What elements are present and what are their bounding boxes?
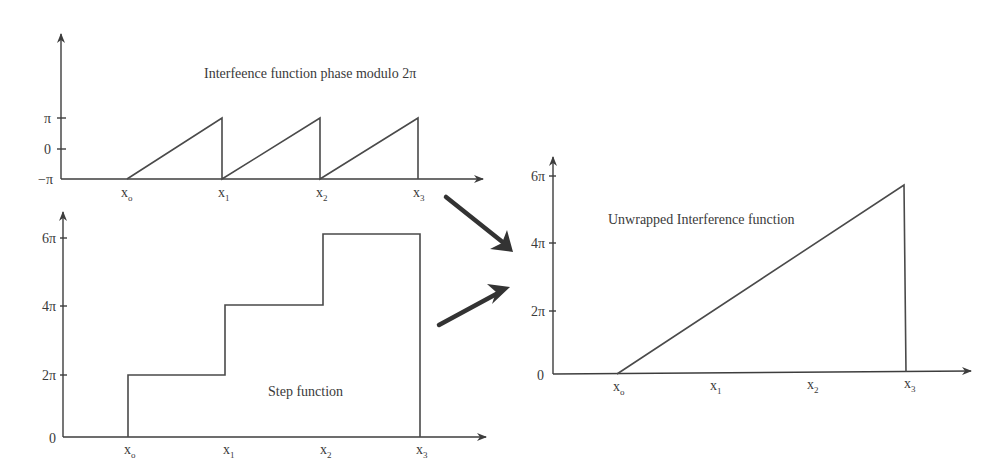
top-chart: π 0 −π Interfeence function phase modulo… <box>38 34 483 203</box>
arrow-top-to-right <box>446 197 513 252</box>
svg-text:xo: xo <box>121 185 133 203</box>
svg-text:x2: x2 <box>320 442 332 460</box>
svg-text:x3: x3 <box>904 376 916 394</box>
bottom-y-label-zero: 0 <box>49 431 56 446</box>
bottom-y-label-6pi: 6π <box>42 231 56 246</box>
right-x-axis <box>553 371 971 374</box>
top-y-label-neg-pi: −π <box>38 172 53 187</box>
diagram-canvas: π 0 −π Interfeence function phase modulo… <box>0 0 1000 475</box>
right-x-label-x1: x1 <box>710 378 722 396</box>
right-x-label-x2: x2 <box>807 377 819 395</box>
bottom-y-label-2pi: 2π <box>42 368 56 383</box>
svg-text:xo: xo <box>124 442 136 460</box>
bottom-x-label-x3: x3 <box>416 442 428 460</box>
right-x-label-x3: x3 <box>904 376 916 394</box>
step-curve <box>128 234 420 437</box>
top-y-label-pi: π <box>44 111 51 126</box>
svg-text:x2: x2 <box>316 185 328 203</box>
right-y-label-zero: 0 <box>537 368 544 383</box>
bottom-chart-title: Step function <box>268 384 343 399</box>
svg-text:x3: x3 <box>413 185 425 203</box>
svg-text:x1: x1 <box>710 378 722 396</box>
top-x-label-x3: x3 <box>413 185 425 203</box>
top-x-label-x0: xo <box>121 185 133 203</box>
right-y-label-6pi: 6π <box>531 169 545 184</box>
right-chart-title: Unwrapped Interference function <box>608 212 795 227</box>
top-chart-title: Interfeence function phase modulo 2π <box>204 66 416 81</box>
bottom-x-label-x2: x2 <box>320 442 332 460</box>
top-x-label-x1: x1 <box>218 185 230 203</box>
bottom-x-label-x0: xo <box>124 442 136 460</box>
bottom-y-label-4pi: 4π <box>42 299 56 314</box>
right-x-label-x0: xo <box>613 379 625 397</box>
svg-text:x2: x2 <box>807 377 819 395</box>
svg-text:x1: x1 <box>218 185 230 203</box>
bottom-chart: 6π 4π 2π 0 Step function xo x1 x2 x3 <box>42 212 486 460</box>
right-y-label-4pi: 4π <box>531 236 545 251</box>
arrow-bottom-to-right <box>439 284 510 325</box>
svg-text:x3: x3 <box>416 442 428 460</box>
right-chart: 6π 4π 2π 0 Unwrapped Interference functi… <box>531 157 971 397</box>
sawtooth-curve <box>127 118 418 179</box>
svg-text:x1: x1 <box>223 442 235 460</box>
bottom-x-label-x1: x1 <box>223 442 235 460</box>
top-y-label-zero: 0 <box>44 142 51 157</box>
svg-text:xo: xo <box>613 379 625 397</box>
right-y-label-2pi: 2π <box>531 304 545 319</box>
top-x-label-x2: x2 <box>316 185 328 203</box>
